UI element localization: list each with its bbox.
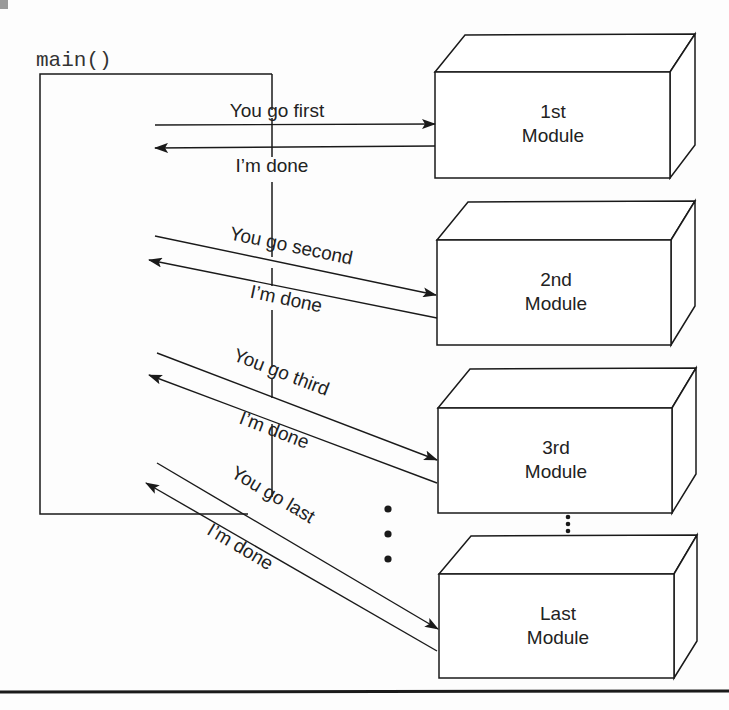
call-label-2: You go second [228, 223, 355, 269]
module-call-diagram: main() 1st Module 2nd Module 3rd Module [0, 0, 729, 710]
return-arrow-1 [155, 146, 435, 148]
main-function-label: main() [36, 49, 112, 72]
bottom-rule [0, 691, 729, 692]
module-2-label-line2: Module [525, 293, 587, 314]
call-arrow-last [157, 463, 438, 629]
module-1-label-line2: Module [522, 125, 584, 146]
main-function-frame [40, 74, 272, 514]
module-ellipsis-dots [566, 515, 571, 534]
module-3-label-line1: 3rd [542, 437, 569, 458]
call-label-3: You go third [231, 344, 333, 400]
module-2-label-line1: 2nd [540, 269, 572, 290]
scan-mark [0, 0, 8, 9]
call-arrow-1 [155, 124, 435, 125]
return-label-2: I’m done [249, 281, 325, 316]
module-3-label-line2: Module [525, 461, 587, 482]
call-label-last: You go last [228, 462, 320, 528]
module-last-label-line2: Module [527, 627, 589, 648]
call-label-1: You go first [230, 100, 325, 121]
diagram-canvas: main() 1st Module 2nd Module 3rd Module [0, 0, 729, 710]
module-last-label-line1: Last [540, 603, 577, 624]
module-1-label-line1: 1st [540, 101, 566, 122]
return-label-1: I’m done [236, 155, 309, 176]
call-ellipsis-dots [384, 505, 391, 562]
return-label-3: I’m done [237, 407, 313, 453]
